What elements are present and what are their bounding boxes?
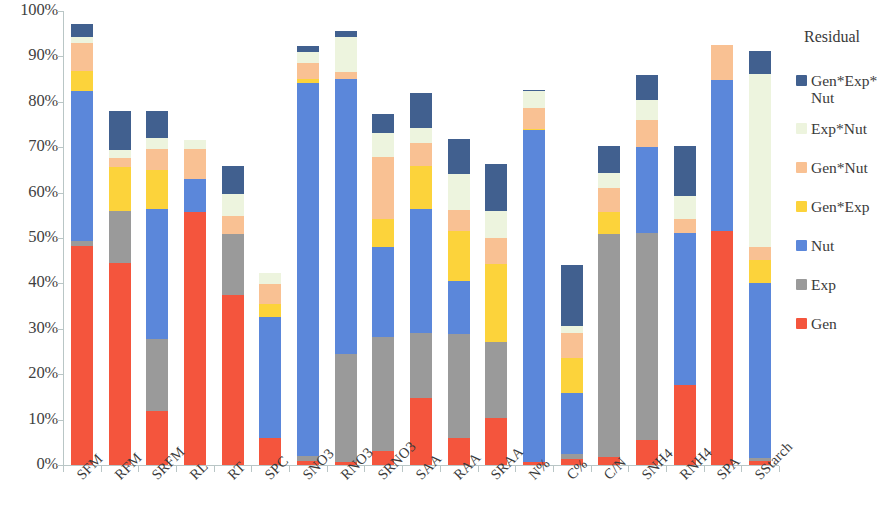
bar-segment-Gen-Nut bbox=[485, 238, 507, 264]
bar-segment-Exp-Nut bbox=[749, 74, 771, 247]
bar-segment-Gen-Exp-Nut bbox=[485, 164, 507, 211]
bar-segment-Exp-Nut bbox=[222, 194, 244, 216]
bar-segment-Gen-Exp-Nut bbox=[146, 111, 168, 137]
bar-segment-Nut bbox=[297, 83, 319, 456]
bar-segment-Gen bbox=[184, 212, 206, 465]
bar-segment-Nut bbox=[146, 209, 168, 339]
bar-SNH4 bbox=[636, 75, 658, 465]
legend-item-label: Exp*Nut bbox=[811, 120, 867, 137]
bar-segment-Exp bbox=[222, 234, 244, 294]
bar-SPA bbox=[711, 45, 733, 465]
bar-segment-Gen-Nut bbox=[636, 120, 658, 147]
legend-item-Gen-Nut[interactable]: Gen*Nut bbox=[796, 159, 888, 176]
bar-segment-Gen-Exp bbox=[448, 231, 470, 281]
legend-item-Exp[interactable]: Exp bbox=[796, 276, 888, 293]
bar-segment-Exp-Nut bbox=[410, 128, 432, 143]
bar-segment-Gen-Exp bbox=[71, 71, 93, 91]
bar-segment-Gen-Nut bbox=[372, 157, 394, 219]
bar-segment-Gen-Exp bbox=[598, 212, 620, 234]
bar-segment-Exp-Nut bbox=[448, 174, 470, 210]
bar-SFM bbox=[71, 24, 93, 465]
bar-RNO3 bbox=[335, 31, 357, 465]
bar-segment-Gen-Nut bbox=[598, 188, 620, 213]
bar-segment-Nut bbox=[184, 179, 206, 212]
bar-RT bbox=[222, 166, 244, 465]
bar-RNH4 bbox=[674, 146, 696, 465]
bar-segment-Gen-Nut bbox=[523, 108, 545, 129]
bar-segment-Gen-Exp bbox=[259, 304, 281, 317]
legend-item-Nut[interactable]: Nut bbox=[796, 237, 888, 254]
bar-segment-Gen bbox=[711, 231, 733, 465]
chart-legend: Residual Gen*Exp* NutExp*NutGen*NutGen*E… bbox=[796, 28, 888, 354]
bar-RL bbox=[184, 140, 206, 465]
bar-segment-Exp bbox=[372, 337, 394, 451]
bar-segment-Exp bbox=[109, 211, 131, 263]
bar-segment-Nut bbox=[711, 80, 733, 232]
bar-segment-Gen-Nut bbox=[297, 63, 319, 78]
bar-segment-Gen-Exp-Nut bbox=[109, 111, 131, 150]
bar-segment-Exp bbox=[410, 333, 432, 397]
bar-segment-Gen-Exp-Nut bbox=[598, 146, 620, 173]
bar-segment-Exp bbox=[146, 339, 168, 412]
bar-segment-Gen-Nut bbox=[259, 284, 281, 304]
legend-swatch-icon bbox=[796, 240, 807, 251]
bar-segment-Gen-Exp-Nut bbox=[372, 114, 394, 133]
bar-segment-Nut bbox=[372, 247, 394, 337]
bar-segment-Exp bbox=[485, 342, 507, 418]
bar-segment-Nut bbox=[561, 393, 583, 454]
bar-SStarch bbox=[749, 51, 771, 465]
bar-segment-Exp-Nut bbox=[485, 211, 507, 238]
legend-item-Gen-Exp[interactable]: Gen*Exp bbox=[796, 198, 888, 215]
bar-segment-Nut bbox=[335, 79, 357, 354]
bar-segment-Nut bbox=[71, 91, 93, 240]
bar-segment-Gen-Nut bbox=[561, 333, 583, 358]
bar-segment-Gen-Nut bbox=[184, 149, 206, 178]
legend-item-label: Gen*Nut bbox=[811, 159, 868, 176]
bar-segment-Gen-Nut bbox=[674, 219, 696, 233]
bar-segment-Exp bbox=[448, 334, 470, 438]
bar-segment-Exp-Nut bbox=[259, 273, 281, 285]
legend-swatch-icon bbox=[796, 75, 807, 86]
bar-segment-Gen-Exp bbox=[109, 167, 131, 211]
legend-title: Residual bbox=[804, 28, 888, 46]
bar-segment-Gen bbox=[71, 246, 93, 465]
bar-segment-Gen-Exp-Nut bbox=[749, 51, 771, 74]
legend-swatch-icon bbox=[796, 162, 807, 173]
bar-segment-Nut bbox=[448, 281, 470, 335]
legend-item-Gen[interactable]: Gen bbox=[796, 315, 888, 332]
bar-segment-Exp-Nut bbox=[674, 196, 696, 219]
bar-segment-Gen-Nut bbox=[711, 45, 733, 80]
bar-C% bbox=[561, 265, 583, 465]
bar-segment-Gen-Exp-Nut bbox=[297, 46, 319, 53]
bar-segment-Exp-Nut bbox=[335, 37, 357, 72]
legend-item-Exp-Nut[interactable]: Exp*Nut bbox=[796, 120, 888, 137]
bar-segment-Nut bbox=[749, 283, 771, 458]
bar-SRFM bbox=[146, 111, 168, 465]
bar-RFM bbox=[109, 111, 131, 465]
bar-segment-Gen-Nut bbox=[109, 158, 131, 167]
bar-segment-Nut bbox=[523, 130, 545, 461]
bar-segment-Exp-Nut bbox=[598, 173, 620, 188]
bar-segment-Gen bbox=[674, 385, 696, 465]
bar-segment-Gen-Exp-Nut bbox=[636, 75, 658, 100]
legend-item-Gen-Exp--Nut[interactable]: Gen*Exp* Nut bbox=[796, 72, 888, 106]
bar-segment-Gen-Exp bbox=[485, 264, 507, 341]
bar-segment-Nut bbox=[410, 209, 432, 334]
bar-segment-Gen-Exp-Nut bbox=[222, 166, 244, 194]
bar-segment-Exp bbox=[598, 234, 620, 457]
legend-swatch-icon bbox=[796, 123, 807, 134]
bar-C/N bbox=[598, 146, 620, 465]
bar-segment-Exp bbox=[636, 233, 658, 440]
bar-segment-Gen-Exp-Nut bbox=[410, 93, 432, 128]
bar-segment-Gen-Exp bbox=[749, 260, 771, 283]
bar-SNO3 bbox=[297, 46, 319, 465]
bar-N% bbox=[523, 90, 545, 465]
bar-segment-Gen-Exp-Nut bbox=[71, 24, 93, 37]
legend-item-label: Gen*Exp bbox=[811, 198, 870, 215]
bar-segment-Exp-Nut bbox=[297, 52, 319, 63]
bar-segment-Gen-Nut bbox=[410, 143, 432, 166]
bar-SRNO3 bbox=[372, 114, 394, 465]
bar-segment-Nut bbox=[674, 233, 696, 385]
bar-SAA bbox=[410, 93, 432, 465]
bar-segment-Exp-Nut bbox=[636, 100, 658, 120]
